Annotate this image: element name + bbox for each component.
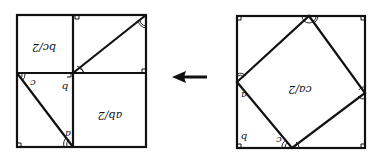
pythagorean-diagram: bc/2 ab/2 ca/2 c b a a b c (0, 0, 378, 166)
side-label-a: a (241, 90, 247, 101)
side-label-b: b (62, 82, 68, 93)
right-inner-square (237, 16, 365, 148)
region-label-ab2: ab/2 (98, 109, 122, 122)
left-arrow-icon (172, 71, 207, 83)
right-outer-square (237, 16, 365, 148)
side-label-c: c (30, 78, 36, 89)
left-top-diagonal (73, 15, 146, 73)
region-label-ca2: ca/2 (288, 83, 311, 96)
region-label-bc2: bc/2 (32, 41, 56, 54)
side-label-c: c (276, 135, 282, 146)
side-label-a: a (65, 129, 71, 140)
side-label-b: b (241, 132, 247, 143)
